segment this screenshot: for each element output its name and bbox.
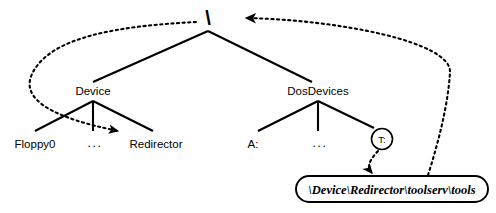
drive-a-node-label: A: [248,138,259,150]
namespace-diagram: \ Device DosDevices Floppy0 ... Redirect… [0,0,496,213]
dosdevices-ellipsis-label: ... [313,136,328,150]
redirector-node-label: Redirector [129,138,182,150]
edge-root-device [93,31,208,82]
edge-dosdevices-a [258,101,318,131]
dotted-link-t-to-target [369,151,378,173]
dosdevices-node-label: DosDevices [287,85,349,97]
edge-device-redirector [93,101,153,131]
floppy0-node-label: Floppy0 [15,138,56,150]
diagram-canvas: \ Device DosDevices Floppy0 ... Redirect… [0,0,496,213]
dosdevices-edges [258,101,374,131]
root-edges [93,31,312,82]
root-node-label: \ [205,7,211,29]
symlink-target-label: \Device\Redirector\toolserv\tools [308,183,475,197]
dotted-link-root-to-redirector [30,22,196,131]
edge-root-dosdevices [208,31,312,82]
device-node-label: Device [75,85,110,97]
drive-t-node-label: T: [378,134,385,145]
device-ellipsis-label: ... [88,136,103,150]
edge-dosdevices-t [318,101,374,128]
